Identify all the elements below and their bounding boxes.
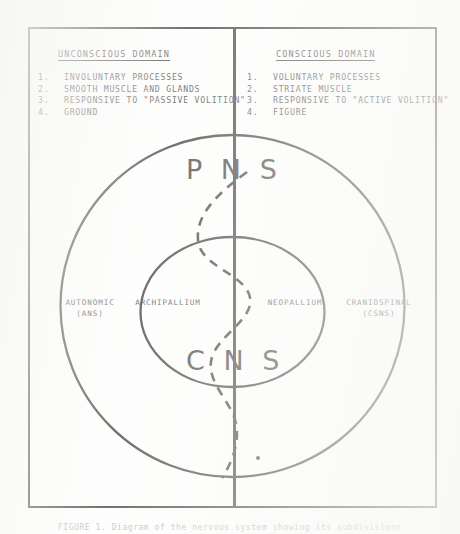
list-item-label: INVOLUNTARY PROCESSES: [64, 72, 183, 82]
list-item-label: SMOOTH MUSCLE AND GLANDS: [64, 84, 200, 94]
list-item: 1.VOLUNTARY PROCESSES: [247, 72, 449, 84]
list-item-label: RESPONSIVE TO "PASSIVE VOLITION": [64, 95, 246, 105]
list-item: 1.INVOLUNTARY PROCESSES: [38, 72, 246, 84]
list-item-number: 4.: [38, 107, 64, 119]
list-item-number: 1.: [247, 72, 273, 84]
list-item: 4.GROUND: [38, 107, 246, 119]
column-heading-unconscious: UNCONSCIOUS DOMAIN: [58, 49, 170, 61]
list-item-number: 3.: [38, 95, 64, 107]
list-item-label: STRIATE MUSCLE: [273, 84, 353, 94]
column-heading-conscious: CONSCIOUS DOMAIN: [276, 49, 375, 61]
conscious-domain-list: 1.VOLUNTARY PROCESSES 2.STRIATE MUSCLE 3…: [247, 72, 449, 118]
label-craniospinal-abbr: (CSNS): [363, 309, 396, 318]
inner-ring-label-cns: C N S: [186, 345, 284, 376]
list-item: 2.SMOOTH MUSCLE AND GLANDS: [38, 84, 246, 96]
list-item: 3.RESPONSIVE TO "PASSIVE VOLITION": [38, 95, 246, 107]
label-archipallium: ARCHIPALLIUM: [108, 298, 228, 309]
list-item-label: VOLUNTARY PROCESSES: [273, 72, 381, 82]
list-item-label: RESPONSIVE TO "ACTIVE VOLITION": [273, 95, 449, 105]
list-item-label: GROUND: [64, 107, 98, 117]
label-craniospinal: CRANIOSPINAL (CSNS): [332, 298, 426, 319]
stray-ink-dot: [256, 456, 260, 460]
figure-caption: FIGURE 1. Diagram of the nervous system …: [58, 523, 448, 534]
list-item-number: 2.: [247, 84, 273, 96]
outer-ring-label-pns: P N S: [186, 154, 282, 185]
list-item-label: FIGURE: [273, 107, 307, 117]
label-craniospinal-name: CRANIOSPINAL: [346, 298, 412, 307]
list-item: 4.FIGURE: [247, 107, 449, 119]
list-item-number: 3.: [247, 95, 273, 107]
list-item-number: 1.: [38, 72, 64, 84]
list-item: 3.RESPONSIVE TO "ACTIVE VOLITION": [247, 95, 449, 107]
list-item: 2.STRIATE MUSCLE: [247, 84, 449, 96]
label-autonomic-abbr: (ANS): [76, 309, 103, 318]
figure-scan: UNCONSCIOUS DOMAIN CONSCIOUS DOMAIN 1.IN…: [0, 0, 460, 534]
unconscious-domain-list: 1.INVOLUNTARY PROCESSES 2.SMOOTH MUSCLE …: [38, 72, 246, 118]
list-item-number: 4.: [247, 107, 273, 119]
list-item-number: 2.: [38, 84, 64, 96]
